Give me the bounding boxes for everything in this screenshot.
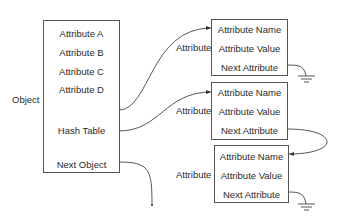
attribute-1-value: Attribute Value [212,44,287,54]
connector-attr3-ground [287,192,306,204]
object-field-attribute-a: Attribute A [44,29,119,39]
object-field-next-object: Next Object [44,160,119,170]
attribute-1-name: Attribute Name [212,25,287,35]
attribute-3-box: Attribute Name Attribute Value Next Attr… [214,145,289,203]
object-field-attribute-d: Attribute D [44,85,119,95]
attribute-2-label: Attribute [176,106,211,116]
attribute-1-label: Attribute [176,43,211,53]
attribute-2-box: Attribute Name Attribute Value Next Attr… [211,82,288,140]
attribute-2-next: Next Attribute [212,126,287,136]
attribute-1-next: Next Attribute [212,63,287,73]
attribute-3-value: Attribute Value [215,171,288,181]
connector-hash-to-attr1 [119,28,211,110]
attribute-3-label: Attribute [176,170,211,180]
attribute-3-name: Attribute Name [215,152,288,162]
object-box: Attribute A Attribute B Attribute C Attr… [43,20,120,173]
connector-attr1-ground [287,65,306,76]
attribute-1-box: Attribute Name Attribute Value Next Attr… [211,19,288,76]
object-field-attribute-b: Attribute B [44,48,119,58]
object-field-hash-table: Hash Table [44,126,119,136]
connector-next-object [119,162,152,205]
connector-attr2-to-attr3 [287,129,327,154]
object-label: Object [12,95,39,105]
attribute-2-name: Attribute Name [212,88,287,98]
attribute-2-value: Attribute Value [212,107,287,117]
attribute-3-next: Next Attribute [215,190,288,200]
object-field-attribute-c: Attribute C [44,67,119,77]
